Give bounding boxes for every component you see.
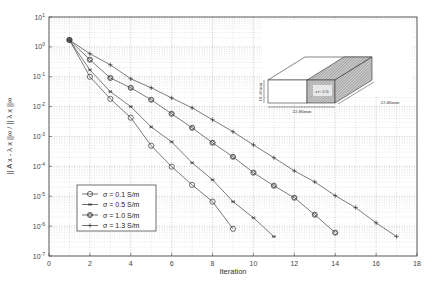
y-tick-label: 100 — [34, 41, 45, 50]
depth-dimension: 22.86mm — [380, 100, 399, 105]
y-tick-label: 10-2 — [33, 101, 45, 110]
convergence-chart: 024681012141618 10110010-110-210-310-410… — [0, 0, 436, 284]
plus-marker-icon — [272, 156, 276, 160]
y-tick-label: 10-1 — [33, 71, 45, 80]
x-tick-label: 18 — [413, 260, 421, 267]
y-tick-label: 10-6 — [33, 221, 45, 230]
y-tick-label: 101 — [34, 12, 45, 21]
star-marker-icon — [88, 68, 92, 71]
plus-marker-icon — [88, 52, 92, 56]
plus-marker-icon — [129, 77, 133, 81]
plus-marker-icon — [333, 193, 337, 197]
x-tick-label: 2 — [88, 260, 92, 267]
plus-marker-icon — [190, 106, 194, 110]
x-axis-ticks: 024681012141618 — [47, 253, 421, 267]
plus-marker-icon — [169, 96, 173, 100]
star-marker-icon — [211, 178, 215, 181]
inset-block-diagram: εr=2.0 10.16mm 22.86mm 22.86mm — [258, 20, 412, 114]
legend: σ = 0.1 S/mσ = 0.5 S/mσ = 1.0 S/mσ = 1.3… — [77, 185, 156, 231]
width-dimension: 22.86mm — [292, 109, 311, 114]
plus-marker-icon — [292, 169, 296, 173]
plus-marker-icon — [313, 180, 317, 184]
plus-marker-icon — [210, 118, 214, 122]
plus-marker-icon — [149, 86, 153, 90]
block-front-air — [268, 80, 307, 103]
star-marker-icon — [251, 216, 255, 219]
legend-item: σ = 1.0 S/m — [82, 212, 140, 219]
legend-label: σ = 0.5 S/m — [103, 201, 140, 208]
height-dimension: 10.16mm — [258, 82, 263, 101]
plus-marker-icon — [394, 234, 398, 238]
x-tick-label: 4 — [129, 260, 133, 267]
y-tick-label: 10-7 — [33, 251, 45, 260]
material-label: εr=2.0 — [316, 89, 329, 94]
y-tick-label: 10-3 — [33, 131, 45, 140]
x-tick-label: 6 — [170, 260, 174, 267]
x-tick-label: 16 — [372, 260, 380, 267]
star-marker-icon — [190, 161, 194, 164]
plus-marker-icon — [108, 63, 112, 67]
y-axis-label: || A x - λ x ||∞ / || λ x ||∞ — [5, 98, 14, 175]
x-axis-label: Iteration — [219, 267, 246, 276]
legend-label: σ = 1.0 S/m — [103, 212, 140, 219]
legend-label: σ = 1.3 S/m — [103, 222, 140, 229]
x-tick-label: 10 — [250, 260, 258, 267]
legend-label: σ = 0.1 S/m — [103, 191, 140, 198]
x-tick-label: 12 — [290, 260, 298, 267]
x-tick-label: 8 — [211, 260, 215, 267]
x-tick-label: 0 — [47, 260, 51, 267]
y-tick-label: 10-4 — [33, 161, 45, 170]
x-tick-label: 14 — [331, 260, 339, 267]
legend-item: σ = 0.1 S/m — [82, 191, 140, 198]
plus-marker-icon — [231, 130, 235, 134]
y-tick-label: 10-5 — [33, 191, 45, 200]
